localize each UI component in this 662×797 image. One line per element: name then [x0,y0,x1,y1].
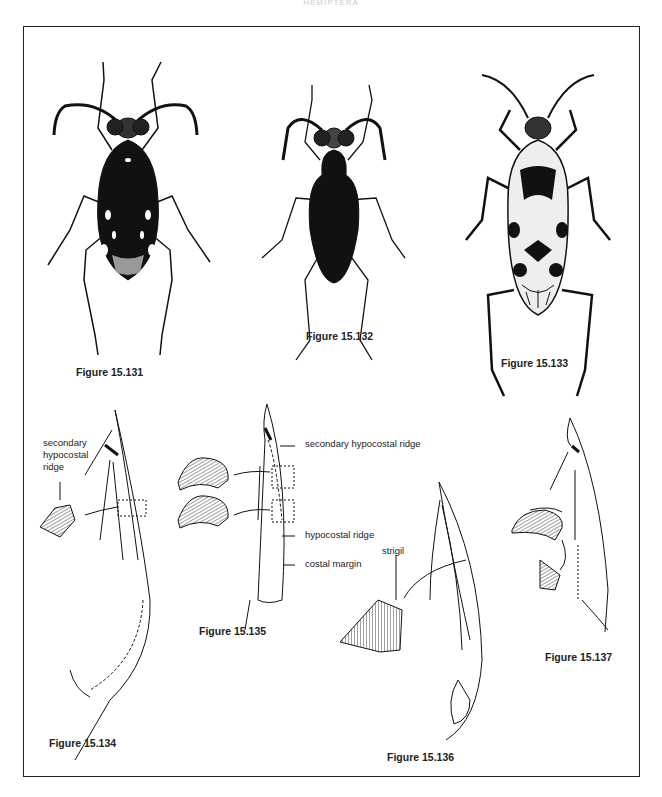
figure-caption-15-134: Figure 15.134 [49,737,116,749]
label-hypocostal-ridge: hypocostal ridge [305,529,374,541]
figure-caption-15-133: Figure 15.133 [501,357,568,369]
label-secondary-hypocostal-ridge-134: secondary hypocostal ridge [43,437,88,473]
wing-diagram-15-137 [512,418,608,632]
label-secondary-hypocostal-ridge-135: secondary hypocostal ridge [305,438,421,450]
figure-caption-15-137: Figure 15.137 [545,651,612,663]
figure-caption-15-131: Figure 15.131 [76,366,143,378]
wing-diagram-15-135 [178,404,295,630]
insect-15-132 [262,85,405,360]
wing-diagram-15-136 [340,482,482,740]
insect-15-133 [466,75,610,396]
label-line-3: ridge [43,461,88,473]
label-strigil: strigil [382,545,404,557]
figure-caption-15-132: Figure 15.132 [306,330,373,342]
figure-caption-15-135: Figure 15.135 [199,625,266,637]
plate-illustrations [0,0,662,797]
insect-15-131 [48,62,210,355]
label-line-2: hypocostal [43,449,88,461]
figure-caption-15-136: Figure 15.136 [387,751,454,763]
label-line-1: secondary [43,437,88,449]
label-costal-margin: costal margin [305,558,362,570]
